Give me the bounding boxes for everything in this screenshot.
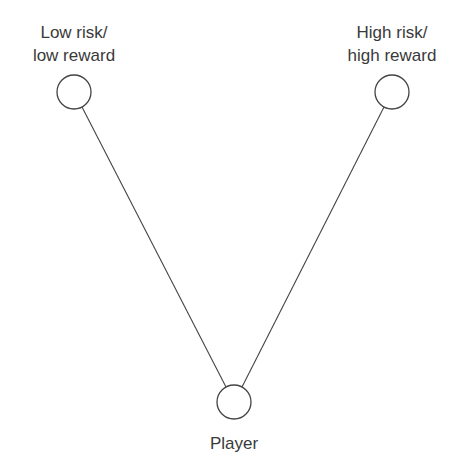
player-label: Player (210, 434, 259, 453)
risk-reward-diagram: Low risk/ low reward High risk/ high rew… (0, 0, 468, 469)
node-player (217, 385, 251, 419)
high-risk-label-line2: high reward (348, 46, 437, 65)
node-low-risk (57, 75, 91, 109)
high-risk-label-line1: High risk/ (357, 23, 428, 42)
node-high-risk (375, 75, 409, 109)
edge-player-to-high-risk (242, 107, 384, 387)
edge-player-to-low-risk (82, 107, 226, 387)
low-risk-label-line2: low reward (33, 46, 115, 65)
low-risk-label-line1: Low risk/ (40, 23, 107, 42)
